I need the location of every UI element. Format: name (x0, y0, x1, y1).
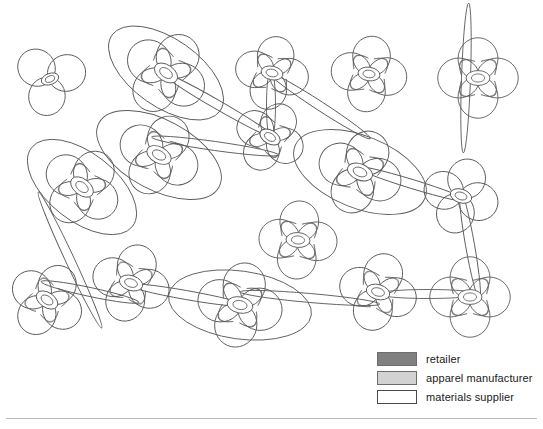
figure-root: retailer apparel manufacturer materials … (0, 0, 543, 429)
node-n12 (430, 257, 511, 338)
node-n2 (119, 26, 213, 120)
node-n7 (38, 143, 126, 231)
legend-item-apparel-manufacturer: apparel manufacturer (377, 368, 537, 387)
node-n16 (335, 249, 421, 335)
node-n11 (258, 200, 339, 281)
node-n8 (113, 109, 205, 201)
legend-label-apparel-manufacturer: apparel manufacturer (426, 372, 533, 384)
node-hub (466, 71, 490, 86)
legend-label-materials-supplier: materials supplier (426, 391, 514, 403)
legend-item-materials-supplier: materials supplier (377, 387, 537, 406)
node-n6 (230, 97, 309, 176)
legend-swatch-materials-supplier (377, 390, 417, 404)
node-n15 (194, 259, 286, 351)
node-n1 (10, 41, 91, 118)
node-n4 (329, 34, 409, 114)
node-n13 (5, 258, 89, 342)
node-n10 (419, 154, 503, 238)
node-layer (5, 26, 518, 351)
node-n9 (313, 125, 408, 220)
legend-swatch-apparel-manufacturer (377, 371, 417, 385)
legend-item-retailer: retailer (377, 349, 537, 368)
node-n14 (88, 240, 174, 326)
footer-divider (6, 418, 537, 419)
legend-swatch-retailer (377, 352, 417, 366)
node-hub (458, 290, 482, 305)
node-n5 (438, 38, 519, 119)
legend: retailer apparel manufacturer materials … (377, 349, 537, 406)
node-n3 (232, 33, 312, 113)
legend-label-retailer: retailer (426, 353, 460, 365)
